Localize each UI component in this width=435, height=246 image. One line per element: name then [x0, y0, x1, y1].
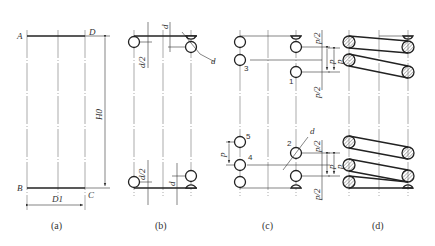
label-d-half-top: d/2: [137, 56, 147, 68]
panel-a: A D B C H0 D1 (a): [16, 27, 110, 232]
caption-a: (a): [51, 220, 62, 232]
label-coil-4: 4: [248, 153, 253, 162]
label-d-top: d: [160, 24, 170, 29]
label-p-half-top-1: p/2: [312, 32, 322, 45]
label-p-bottom-d: p: [334, 164, 344, 170]
label-H0: H0: [94, 109, 104, 121]
spring-drawing-steps: A D B C H0 D1 (a) d/2 d d d/2 d (b): [0, 0, 435, 246]
caption-d: (d): [372, 220, 384, 232]
label-d-diag: d: [211, 56, 216, 66]
label-D1: D1: [51, 194, 63, 204]
label-D: D: [88, 27, 96, 37]
label-p-left: p: [217, 152, 227, 158]
label-coil-2: 2: [287, 139, 292, 148]
label-A: A: [16, 31, 23, 41]
panel-b: d/2 d d d/2 d (b): [129, 22, 217, 232]
label-coil-5: 5: [246, 132, 251, 141]
label-d-half-bottom: d/2: [137, 168, 147, 180]
label-p-half-bottom-1: p/2: [312, 140, 322, 153]
label-p-half-top-2: p/2: [312, 86, 322, 99]
label-d-bottom: d: [167, 181, 177, 186]
caption-c: (c): [262, 220, 273, 232]
panel-c: 3 1 5 2 4 d p/2 p p/2 p/2 p p/2 p (c): [217, 30, 336, 232]
panel-d: p p (d): [328, 30, 414, 232]
label-C: C: [88, 190, 95, 200]
label-p-half-bottom-2: p/2: [312, 188, 322, 201]
label-coil-1: 1: [289, 77, 294, 86]
label-p-top-d: p: [334, 59, 344, 65]
label-B: B: [17, 183, 23, 193]
caption-b: (b): [155, 220, 167, 232]
label-coil-3: 3: [244, 64, 249, 73]
label-d-diag-c: d: [310, 126, 315, 136]
